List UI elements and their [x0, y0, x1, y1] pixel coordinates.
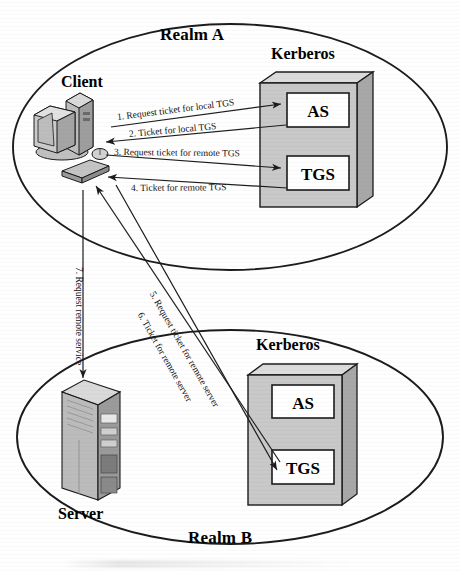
flow-arrow-6 [96, 186, 280, 462]
server-icon [62, 380, 120, 500]
flow-arrow-5 [116, 185, 277, 470]
flow-label-4: 4. Ticket for remote TGS [131, 182, 227, 193]
client-computer-icon [34, 93, 109, 183]
realm-a-kerberos-label: Kerberos [271, 45, 335, 63]
realm-a-kerberos-box: AS TGS [260, 72, 373, 207]
realm-a-tgs-label: TGS [301, 165, 335, 184]
realm-b-server-label: Server [58, 505, 103, 523]
kerberos-cross-realm-diagram: AS TGS AS TGS [0, 0, 460, 571]
realm-a-client-label: Client [61, 73, 103, 91]
flow-label-7: 7. Request remote service [74, 267, 84, 365]
scan-artifact [60, 560, 360, 568]
realm-b-kerberos-box: AS TGS [248, 364, 357, 505]
realm-b-tgs-label: TGS [286, 459, 320, 478]
flow-label-3: 3. Request ticket for remote TGS [114, 147, 240, 158]
realm-b-label: Realm B [188, 528, 252, 548]
realm-a-label: Realm A [160, 25, 224, 45]
realm-b-as-label: AS [292, 394, 314, 413]
realm-b-kerberos-label: Kerberos [256, 336, 320, 354]
realm-a-as-label: AS [307, 102, 329, 121]
